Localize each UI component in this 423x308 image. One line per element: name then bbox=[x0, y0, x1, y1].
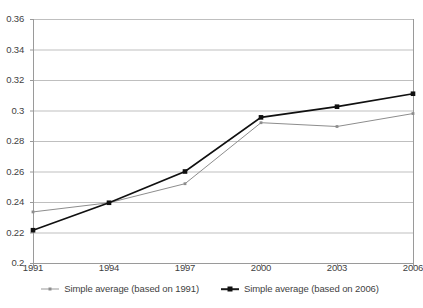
data-point-marker bbox=[335, 104, 340, 109]
y-axis-tick-label: 0.22 bbox=[0, 228, 30, 238]
data-point-marker bbox=[184, 182, 187, 185]
data-point-marker bbox=[260, 121, 263, 124]
legend-item-1991[interactable]: Simple average (based on 1991) bbox=[41, 283, 199, 295]
data-point-marker bbox=[336, 125, 339, 128]
y-axis-tick-label: 0.26 bbox=[0, 167, 30, 177]
data-point-marker bbox=[31, 228, 36, 233]
legend-item-2006[interactable]: Simple average (based on 2006) bbox=[221, 283, 379, 295]
data-point-marker bbox=[411, 91, 416, 96]
x-axis-tick-label: 1997 bbox=[175, 262, 195, 273]
y-axis-tick-label: 0.24 bbox=[0, 197, 30, 207]
data-point-marker bbox=[259, 115, 264, 120]
y-axis-tick-label: 0.34 bbox=[0, 45, 30, 55]
x-axis-tick-label: 1994 bbox=[99, 262, 119, 273]
x-axis-tick-label: 2000 bbox=[251, 262, 271, 273]
y-axis-tick-labels: 0.360.340.320.30.280.260.240.220.2 bbox=[0, 0, 30, 275]
data-point-marker bbox=[107, 200, 112, 205]
chart-legend: Simple average (based on 1991) Simple av… bbox=[0, 283, 420, 305]
legend-label-2006: Simple average (based on 2006) bbox=[244, 283, 379, 295]
x-axis-tick-label: 2006 bbox=[403, 262, 423, 273]
x-axis-tick-labels: 199119941997200020032006 bbox=[0, 262, 420, 278]
y-axis-tick-label: 0.3 bbox=[0, 106, 30, 116]
legend-marker-2006-icon bbox=[221, 284, 239, 294]
legend-label-1991: Simple average (based on 1991) bbox=[64, 283, 199, 295]
y-axis-tick-label: 0.28 bbox=[0, 136, 30, 146]
legend-marker-1991-icon bbox=[41, 284, 59, 294]
x-axis-tick-label: 1991 bbox=[23, 262, 43, 273]
plot-area: 0.360.340.320.30.280.260.240.220.2 bbox=[0, 0, 420, 275]
data-point-marker bbox=[183, 169, 188, 174]
data-point-marker bbox=[412, 112, 415, 115]
y-axis-tick-label: 0.36 bbox=[0, 14, 30, 24]
y-axis-tick-label: 0.32 bbox=[0, 75, 30, 85]
x-axis-tick-label: 2003 bbox=[327, 262, 347, 273]
plot-canvas bbox=[0, 0, 420, 275]
data-point-marker bbox=[32, 211, 35, 214]
